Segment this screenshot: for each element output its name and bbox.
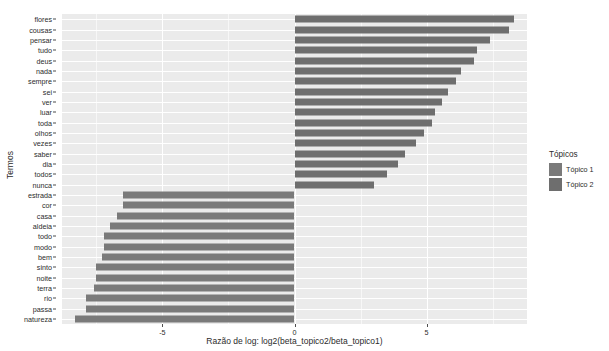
y-axis-tick-label: vezes bbox=[33, 139, 52, 148]
y-axis-tick-mark bbox=[53, 19, 56, 20]
y-axis-tick-label: todos bbox=[34, 170, 52, 179]
bar bbox=[102, 253, 295, 260]
bar bbox=[104, 233, 294, 240]
y-axis-tick-mark bbox=[53, 91, 56, 92]
bar bbox=[75, 315, 294, 322]
y-axis-tick-labels: florescousaspensartudodeusnadasempreseiv… bbox=[16, 14, 56, 324]
bar bbox=[295, 171, 387, 178]
legend-item-label: Tópico 1 bbox=[566, 165, 594, 174]
bar bbox=[295, 36, 491, 43]
y-axis-tick-label: deus bbox=[36, 56, 52, 65]
bar bbox=[295, 16, 514, 23]
y-axis-title-label: Termos bbox=[5, 151, 15, 179]
bar bbox=[295, 150, 406, 157]
y-axis-tick-label: nunca bbox=[32, 180, 52, 189]
y-axis-tick-label: cousas bbox=[29, 25, 52, 34]
x-axis-tick-mark bbox=[295, 324, 296, 327]
y-axis-tick-label: passa bbox=[33, 304, 52, 313]
y-axis-tick-label: aldeia bbox=[33, 221, 52, 230]
y-axis-tick-label: luar bbox=[40, 108, 52, 117]
bar bbox=[104, 243, 294, 250]
x-axis-tick-mark bbox=[162, 324, 163, 327]
bar bbox=[295, 88, 448, 95]
y-axis-tick-mark bbox=[53, 256, 56, 257]
x-axis-tick-mark bbox=[427, 324, 428, 327]
y-axis-tick-mark bbox=[53, 194, 56, 195]
bar bbox=[295, 109, 435, 116]
y-axis-tick-label: dia bbox=[42, 159, 52, 168]
bar bbox=[295, 160, 398, 167]
bar bbox=[96, 264, 294, 271]
y-axis-tick-mark bbox=[53, 308, 56, 309]
y-axis-tick-mark bbox=[53, 143, 56, 144]
y-axis-tick-label: pensar bbox=[30, 35, 52, 44]
y-axis-tick-label: terra bbox=[37, 283, 52, 292]
y-axis-tick-mark bbox=[53, 184, 56, 185]
legend-title: Tópicos bbox=[549, 150, 609, 159]
y-axis-tick-mark bbox=[53, 153, 56, 154]
bar bbox=[123, 202, 295, 209]
y-axis-tick-label: flores bbox=[34, 15, 52, 24]
bar bbox=[86, 295, 295, 302]
legend-item: Tópico 1 bbox=[549, 163, 609, 176]
y-axis-tick-mark bbox=[53, 70, 56, 71]
bar bbox=[94, 284, 295, 291]
y-axis-tick-label: olhos bbox=[35, 128, 52, 137]
y-axis-tick-mark bbox=[53, 101, 56, 102]
bar bbox=[123, 191, 295, 198]
bar bbox=[295, 78, 456, 85]
bar bbox=[110, 222, 295, 229]
y-axis-tick-mark bbox=[53, 236, 56, 237]
y-axis-tick-mark bbox=[53, 277, 56, 278]
plot-panel bbox=[62, 14, 527, 324]
y-axis-tick-mark bbox=[53, 60, 56, 61]
y-axis-tick-mark bbox=[53, 246, 56, 247]
bar bbox=[295, 119, 432, 126]
legend-items: Tópico 1Tópico 2 bbox=[549, 163, 609, 191]
y-axis-tick-mark bbox=[53, 112, 56, 113]
y-axis-tick-mark bbox=[53, 267, 56, 268]
y-axis-tick-label: cor bbox=[42, 201, 52, 210]
bar bbox=[295, 47, 477, 54]
y-axis-tick-mark bbox=[53, 81, 56, 82]
y-axis-tick-label: saber bbox=[34, 149, 52, 158]
y-axis-tick-label: ver bbox=[42, 97, 52, 106]
y-axis-tick-label: sinto bbox=[37, 263, 52, 272]
y-axis-tick-label: noite bbox=[36, 273, 52, 282]
bar bbox=[295, 140, 417, 147]
bar bbox=[86, 305, 295, 312]
y-axis-tick-mark bbox=[53, 163, 56, 164]
y-axis-tick-label: estrada bbox=[28, 190, 52, 199]
y-axis-tick-mark bbox=[53, 205, 56, 206]
y-axis-tick-label: rio bbox=[44, 294, 52, 303]
y-axis-tick-mark bbox=[53, 298, 56, 299]
bar bbox=[295, 26, 509, 33]
y-axis-tick-label: toda bbox=[38, 118, 52, 127]
y-axis-tick-mark bbox=[53, 225, 56, 226]
y-axis-tick-label: bem bbox=[38, 252, 52, 261]
bar bbox=[295, 98, 443, 105]
y-axis-tick-mark bbox=[53, 174, 56, 175]
legend-item-label: Tópico 2 bbox=[566, 180, 594, 189]
bar bbox=[295, 67, 461, 74]
legend-item: Tópico 2 bbox=[549, 178, 609, 191]
bar bbox=[295, 129, 424, 136]
bar bbox=[117, 212, 294, 219]
x-axis-title: Razão de log: log2(beta_topico2/beta_top… bbox=[62, 336, 527, 346]
legend-swatch bbox=[549, 178, 562, 191]
y-axis-tick-label: todo bbox=[38, 232, 52, 241]
y-axis-tick-label: casa bbox=[37, 211, 52, 220]
legend: Tópicos Tópico 1Tópico 2 bbox=[549, 150, 609, 193]
y-axis-tick-mark bbox=[53, 50, 56, 51]
y-axis-tick-label: sei bbox=[43, 87, 52, 96]
bar bbox=[295, 181, 374, 188]
log-ratio-bar-chart: Termos florescousaspensartudodeusnadasem… bbox=[0, 0, 609, 351]
y-axis-tick-mark bbox=[53, 215, 56, 216]
y-axis-tick-mark bbox=[53, 132, 56, 133]
y-axis-tick-mark bbox=[53, 318, 56, 319]
y-axis-tick-mark bbox=[53, 39, 56, 40]
bar bbox=[295, 57, 475, 64]
y-axis-tick-mark bbox=[53, 287, 56, 288]
bar bbox=[96, 274, 294, 281]
y-axis-tick-label: nada bbox=[36, 66, 52, 75]
